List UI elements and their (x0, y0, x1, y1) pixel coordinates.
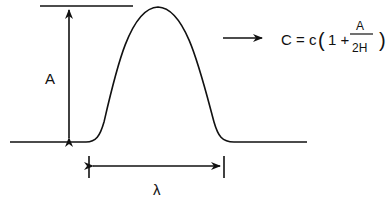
formula-numerator: A (356, 19, 364, 33)
formula-open-paren: ( (318, 29, 325, 51)
wave-diagram: A λ C = c ( 1 + A 2H ) (0, 0, 390, 201)
formula-one-plus: 1 + (328, 31, 350, 48)
formula-lhs: C = c (281, 31, 317, 48)
formula-denominator: 2H (352, 41, 367, 55)
formula-close-paren: ) (379, 29, 386, 51)
amplitude-label: A (45, 70, 55, 87)
wavelength-label: λ (153, 181, 161, 198)
